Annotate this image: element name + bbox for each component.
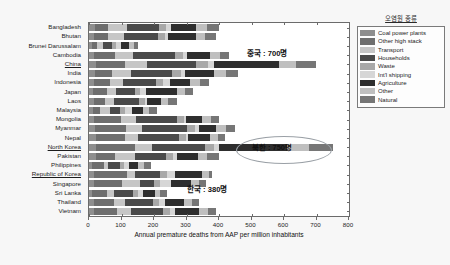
bar-row (89, 98, 177, 105)
x-tick (348, 217, 349, 220)
bar-segment (103, 42, 113, 49)
bar-segment (211, 116, 219, 123)
bar-segment (135, 171, 160, 178)
frame-tick-right (347, 101, 350, 102)
bar-segment (112, 70, 130, 77)
x-tick (153, 217, 154, 220)
legend-label: Int'l shipping (378, 72, 411, 78)
bar-segment (96, 61, 125, 68)
bar-segment (214, 61, 279, 68)
legend-item[interactable]: Waste (360, 62, 442, 70)
bar-row (89, 116, 219, 123)
bar-segment (114, 199, 126, 206)
bar-segment (187, 52, 210, 59)
frame-tick-right (347, 37, 350, 38)
bar-segment (117, 208, 131, 215)
legend-item[interactable]: Transport (360, 46, 442, 54)
annotation-north-korea: 북한 : 750명 (252, 141, 292, 152)
y-axis-label-china: China (65, 60, 81, 67)
bar-segment (175, 52, 183, 59)
legend-item[interactable]: Other (360, 87, 442, 95)
y-axis-label-vietnam: Vietnam (58, 207, 81, 214)
bar-row (89, 190, 167, 197)
bar-segment (184, 199, 192, 206)
bar-segment (172, 70, 180, 77)
bar-row (89, 171, 212, 178)
chart-legend: Coal power plantsOther high stackTranspo… (357, 26, 445, 108)
x-axis: Annual premature deaths from AAP per mil… (88, 217, 350, 247)
legend-label: Households (378, 55, 410, 61)
bar-segment (94, 171, 127, 178)
bar-segment (177, 153, 197, 160)
bar-segment (156, 79, 163, 86)
y-axis-label-singapore: Singapore (53, 180, 81, 187)
legend-item[interactable]: Agriculture (360, 79, 442, 87)
bar-segment (95, 70, 113, 77)
bar-row (89, 79, 209, 86)
bar-segment (198, 153, 207, 160)
bar-segment (131, 70, 173, 77)
annotation-china: 중국 : 700명 (247, 47, 287, 58)
bar-segment (214, 70, 226, 77)
legend-item[interactable]: Other high stack (360, 37, 442, 45)
y-axis-label-mongolia: Mongolia (56, 115, 81, 122)
bar-segment (200, 79, 209, 86)
frame-tick (187, 22, 188, 25)
bar-row (89, 162, 151, 169)
y-axis-label-malaysia: Malaysia (57, 106, 81, 113)
legend-label: Other (378, 88, 393, 94)
bar-row (89, 42, 138, 49)
bar-row (89, 33, 216, 40)
bar-segment (121, 42, 129, 49)
bar-segment (210, 134, 218, 141)
bar-segment (165, 199, 184, 206)
bar-segment (160, 190, 167, 197)
bar-segment (94, 208, 117, 215)
bar-segment (125, 134, 138, 141)
bar-segment (122, 180, 140, 187)
bar-segment (93, 88, 107, 95)
bar-segment (167, 171, 175, 178)
legend-item[interactable]: Households (360, 54, 442, 62)
y-axis-label-thailand: Thailand (57, 198, 81, 205)
y-axis-label-myanmar: Myanmar (55, 124, 81, 131)
y-axis-label-philippines: Philippines (51, 161, 81, 168)
legend-item[interactable]: Coal power plants (360, 29, 442, 37)
bar-segment (138, 134, 178, 141)
bar-segment (135, 153, 166, 160)
x-tick-label: 700 (310, 221, 320, 228)
y-axis-label-nepal: Nepal (65, 134, 81, 141)
bar-segment (95, 24, 109, 31)
bar-segment (210, 52, 220, 59)
bar-segment (188, 134, 209, 141)
bar-segment (96, 153, 116, 160)
legend-item[interactable]: Int'l shipping (360, 70, 442, 78)
frame-tick-right (347, 83, 350, 84)
x-tick-label: 400 (213, 221, 223, 228)
bar-segment (209, 171, 212, 178)
bar-row (89, 134, 225, 141)
frame-tick (219, 22, 220, 25)
annotation-south-korea: 한국 : 380명 (187, 183, 227, 194)
bar-segment (94, 98, 105, 105)
bar-row (89, 125, 235, 132)
bar-segment (92, 190, 106, 197)
bar-segment (114, 190, 134, 197)
bar-segment (100, 107, 110, 114)
x-tick-label: 500 (245, 221, 255, 228)
bar-segment (127, 24, 159, 31)
legend-item[interactable]: Natural (360, 95, 442, 103)
bar-segment (115, 153, 135, 160)
frame-tick (317, 22, 318, 25)
bar-segment (160, 180, 171, 187)
bar-segment (125, 199, 152, 206)
y-axis-label-north-korea: North Korea (48, 143, 81, 150)
bar-segment (108, 162, 120, 169)
y-axis-label-japan: Japan (64, 88, 81, 95)
bar-segment (168, 33, 195, 40)
bar-segment (125, 61, 148, 68)
bar-segment (146, 88, 177, 95)
bar-segment (107, 190, 114, 197)
bar-segment (89, 144, 96, 151)
bar-segment (134, 42, 138, 49)
